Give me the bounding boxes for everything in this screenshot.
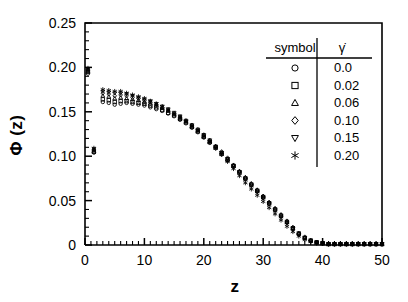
legend-header-gamma-dot: γ̇ — [339, 40, 347, 55]
legend-value-label: 0.02 — [334, 78, 359, 93]
legend-value-label: 0.15 — [334, 130, 359, 145]
legend-value-label: 0.10 — [334, 113, 359, 128]
x-tick-label: 0 — [81, 252, 89, 268]
y-tick-label: 0.05 — [49, 193, 76, 209]
y-tick-label: 0.10 — [49, 148, 76, 164]
x-tick-label: 40 — [315, 252, 331, 268]
y-tick-label: 0.20 — [49, 59, 76, 75]
y-tick-label: 0.25 — [49, 15, 76, 31]
y-axis-label: Φ (z) — [7, 115, 26, 156]
y-tick-label: 0.15 — [49, 104, 76, 120]
x-tick-label: 50 — [374, 252, 390, 268]
x-tick-label: 30 — [255, 252, 271, 268]
plot-canvas: 01020304050 00.050.100.150.200.25 symbol… — [0, 0, 408, 302]
legend-value-label: 0.0 — [334, 60, 352, 75]
legend-value-label: 0.20 — [334, 148, 359, 163]
x-axis-label: z — [231, 277, 240, 296]
y-tick-label: 0 — [68, 237, 76, 253]
legend-value-label: 0.06 — [334, 95, 359, 110]
scatter-plot-figure: 01020304050 00.050.100.150.200.25 symbol… — [0, 0, 408, 302]
x-tick-label: 10 — [137, 252, 153, 268]
legend-header-symbol: symbol — [274, 40, 315, 55]
x-tick-label: 20 — [196, 252, 212, 268]
